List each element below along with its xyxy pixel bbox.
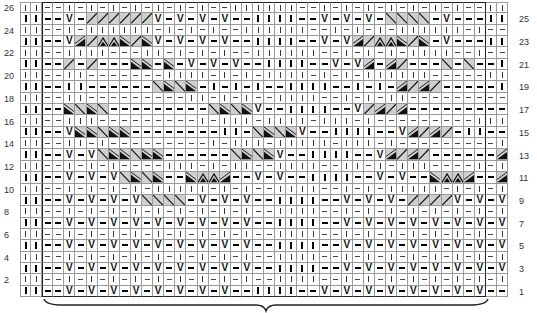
knit-stitch <box>264 70 275 81</box>
knit-stitch <box>198 70 209 81</box>
chart-row: VV <box>20 104 508 115</box>
purl-stitch <box>430 115 441 126</box>
purl-stitch <box>53 149 64 160</box>
purl-stitch <box>209 184 220 195</box>
purl-stitch <box>75 195 86 206</box>
cable-cell <box>220 104 231 115</box>
knit-stitch <box>331 149 342 160</box>
cable-cell <box>386 36 397 47</box>
purl-stitch <box>442 104 453 115</box>
purl-stitch <box>320 229 331 240</box>
purl-stitch <box>142 161 153 172</box>
knit-stitch <box>275 206 286 217</box>
chart-row <box>20 25 508 36</box>
slip-stitch: V <box>253 172 264 183</box>
knit-stitch <box>98 138 109 149</box>
purl-stitch <box>464 286 475 297</box>
slip-stitch: V <box>87 172 98 183</box>
purl-stitch <box>320 263 331 274</box>
purl-stitch <box>297 36 308 47</box>
knit-stitch <box>109 184 120 195</box>
knit-stitch <box>220 127 231 138</box>
cable-cell <box>120 36 131 47</box>
knit-stitch <box>331 172 342 183</box>
knit-stitch <box>31 206 42 217</box>
purl-stitch <box>98 2 109 13</box>
slip-stitch: V <box>220 263 231 274</box>
knit-stitch <box>364 93 375 104</box>
purl-stitch <box>53 172 64 183</box>
cable-cell <box>353 36 364 47</box>
purl-stitch <box>375 127 386 138</box>
purl-stitch <box>175 115 186 126</box>
purl-stitch <box>120 81 131 92</box>
purl-stitch <box>142 2 153 13</box>
slip-stitch: V <box>475 195 486 206</box>
cable-cell <box>75 127 86 138</box>
knit-stitch <box>497 70 508 81</box>
purl-stitch <box>464 149 475 160</box>
purl-stitch <box>198 25 209 36</box>
purl-stitch <box>397 240 408 251</box>
knit-stitch <box>464 127 475 138</box>
knit-stitch <box>275 252 286 263</box>
purl-stitch <box>297 149 308 160</box>
purl-stitch <box>331 263 342 274</box>
knit-stitch <box>198 2 209 13</box>
purl-stitch <box>486 81 497 92</box>
slip-stitch: V <box>364 218 375 229</box>
purl-stitch <box>98 161 109 172</box>
purl-stitch <box>442 274 453 285</box>
knit-stitch <box>164 161 175 172</box>
knit-stitch <box>386 184 397 195</box>
cable-cell <box>397 149 408 160</box>
purl-stitch <box>453 104 464 115</box>
knit-stitch <box>64 115 75 126</box>
purl-stitch <box>164 93 175 104</box>
purl-stitch <box>42 115 53 126</box>
purl-stitch <box>75 25 86 36</box>
knit-stitch <box>342 172 353 183</box>
knit-stitch <box>475 47 486 58</box>
slip-stitch: V <box>342 240 353 251</box>
slip-stitch: V <box>475 240 486 251</box>
knit-stitch <box>286 115 297 126</box>
purl-stitch <box>186 286 197 297</box>
purl-stitch <box>53 104 64 115</box>
knit-stitch <box>131 2 142 13</box>
row-number-left: 4 <box>4 253 9 263</box>
cable-cell <box>453 172 464 183</box>
purl-stitch <box>375 286 386 297</box>
purl-stitch <box>486 286 497 297</box>
purl-stitch <box>320 218 331 229</box>
purl-stitch <box>98 59 109 70</box>
purl-stitch <box>220 138 231 149</box>
row-number-left: 10 <box>4 185 14 195</box>
knit-stitch <box>231 115 242 126</box>
purl-stitch <box>120 161 131 172</box>
cable-cell <box>364 36 375 47</box>
purl-stitch <box>164 127 175 138</box>
purl-stitch <box>408 115 419 126</box>
purl-stitch <box>419 240 430 251</box>
knit-stitch <box>87 229 98 240</box>
knit-stitch <box>297 252 308 263</box>
knit-stitch <box>308 252 319 263</box>
purl-stitch <box>209 274 220 285</box>
knit-stitch <box>20 25 31 36</box>
knit-stitch <box>375 81 386 92</box>
knit-stitch <box>264 59 275 70</box>
knit-stitch <box>275 115 286 126</box>
purl-stitch <box>353 13 364 24</box>
purl-stitch <box>464 161 475 172</box>
purl-stitch <box>419 2 430 13</box>
purl-stitch <box>486 229 497 240</box>
slip-stitch: V <box>64 13 75 24</box>
purl-stitch <box>53 13 64 24</box>
knit-stitch <box>64 184 75 195</box>
cable-cell <box>64 104 75 115</box>
purl-stitch <box>264 161 275 172</box>
slip-stitch: V <box>342 36 353 47</box>
purl-stitch <box>42 36 53 47</box>
repeat-brace <box>42 297 490 313</box>
